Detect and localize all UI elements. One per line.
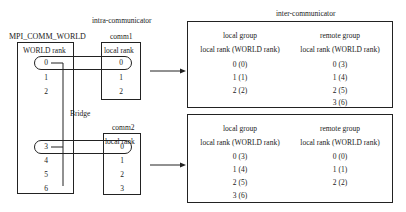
world-title: MPI_COMM_WORLD <box>9 33 86 41</box>
bottom-remote-header: local rank (WORLD rank) <box>288 139 392 147</box>
top-remote-row-2: 2 (5) <box>288 87 392 95</box>
bridge-label: Bridge <box>70 110 90 118</box>
group-oval-comm2 <box>34 140 132 154</box>
top-remote-row-0: 0 (3) <box>288 61 392 69</box>
world-rank-2: 2 <box>41 88 51 96</box>
arrow-head-top-icon <box>180 69 186 74</box>
bottom-remote-row-1: 1 (1) <box>288 166 392 174</box>
group-oval-comm1 <box>34 56 132 70</box>
world-rank-5: 5 <box>41 171 51 179</box>
world-rank-1: 1 <box>41 74 51 82</box>
top-remote-header: local rank (WORLD rank) <box>288 46 392 54</box>
bottom-remote-title: remote group <box>288 125 392 133</box>
bottom-local-row-2: 2 (5) <box>188 179 292 187</box>
comm2-rank-2: 2 <box>117 171 127 179</box>
intra-title: intra-communicator <box>92 17 152 25</box>
bottom-local-row-1: 1 (4) <box>188 166 292 174</box>
comm1-title: comm1 <box>110 33 133 41</box>
world-rank-6: 6 <box>41 185 51 193</box>
top-remote-row-3: 3 (6) <box>288 99 392 107</box>
bottom-remote-row-0: 0 (0) <box>288 153 392 161</box>
world-rank-header: WORLD rank <box>23 47 66 55</box>
top-remote-row-1: 1 (4) <box>288 74 392 82</box>
bottom-local-row-0: 0 (3) <box>188 153 292 161</box>
top-local-row-2: 2 (2) <box>188 87 292 95</box>
comm1-header: local rank <box>104 47 134 55</box>
world-rank-4: 4 <box>41 157 51 165</box>
comm2-title: comm2 <box>112 124 135 132</box>
top-local-row-0: 0 (0) <box>188 61 292 69</box>
top-local-row-1: 1 (1) <box>188 74 292 82</box>
top-local-header: local rank (WORLD rank) <box>188 46 292 54</box>
bottom-local-row-3: 3 (6) <box>188 192 292 200</box>
comm1-rank-1: 1 <box>116 74 126 82</box>
comm2-rank-3: 3 <box>117 185 127 193</box>
bottom-remote-row-2: 2 (2) <box>288 179 392 187</box>
inter-top-box: local group local rank (WORLD rank) 0 (0… <box>187 21 393 108</box>
bottom-local-header: local rank (WORLD rank) <box>188 139 292 147</box>
top-remote-title: remote group <box>288 32 392 40</box>
arrow-head-bottom-icon <box>180 163 186 168</box>
bottom-local-title: local group <box>188 125 292 133</box>
inter-bottom-box: local group local rank (WORLD rank) 0 (3… <box>187 114 393 203</box>
comm1-rank-2: 2 <box>116 88 126 96</box>
inter-title: inter-communicator <box>276 10 335 18</box>
top-local-title: local group <box>188 32 292 40</box>
comm2-rank-1: 1 <box>117 157 127 165</box>
